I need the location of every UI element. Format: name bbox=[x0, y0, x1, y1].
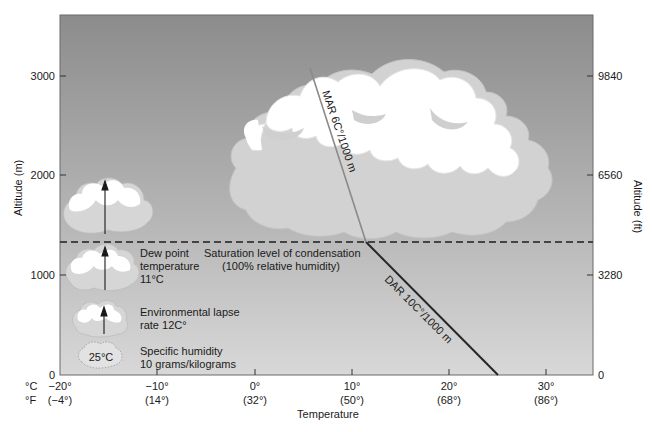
x-tick-f-3: (50°) bbox=[340, 394, 364, 406]
x-tick-f-0: (−4°) bbox=[48, 394, 72, 406]
x-tick-c-3: 10° bbox=[344, 380, 361, 392]
right-tick-3280: 3280 bbox=[598, 269, 622, 281]
right-tick-0: 0 bbox=[598, 369, 604, 381]
saturation-label-2: (100% relative humidity) bbox=[222, 260, 340, 272]
x-tick-c-1: −10° bbox=[145, 380, 168, 392]
adiabatic-diagram: 25°C MAR 6C°/1000 m DAR 10C°/1000 m Dew … bbox=[0, 0, 652, 432]
humidity-label-2: 10 grams/kilograms bbox=[140, 358, 236, 370]
right-axis-label: Altitude (ft) bbox=[632, 180, 644, 233]
humidity-label-1: Specific humidity bbox=[140, 345, 223, 357]
x-tick-f-2: (32°) bbox=[243, 394, 267, 406]
bottom-axis-label: Temperature bbox=[297, 408, 359, 420]
left-tick-2000: 2000 bbox=[31, 169, 55, 181]
left-tick-1000: 1000 bbox=[31, 269, 55, 281]
celsius-unit: °C bbox=[25, 380, 37, 392]
x-tick-c-5: 30° bbox=[538, 380, 555, 392]
x-tick-c-4: 20° bbox=[441, 380, 458, 392]
right-tick-9840: 9840 bbox=[598, 70, 622, 82]
fahrenheit-unit: °F bbox=[25, 394, 36, 406]
right-tick-6560: 6560 bbox=[598, 169, 622, 181]
lapse-rate-label-1: Environmental lapse bbox=[140, 306, 240, 318]
x-tick-f-1: (14°) bbox=[145, 394, 169, 406]
x-tick-c-2: 0° bbox=[250, 380, 261, 392]
dew-point-label-3: 11°C bbox=[140, 273, 164, 285]
x-tick-c-0: −20° bbox=[48, 380, 71, 392]
x-tick-f-5: (86°) bbox=[534, 394, 558, 406]
left-axis-label: Altitude (m) bbox=[12, 160, 24, 216]
saturation-label-1: Saturation level of condensation bbox=[204, 247, 361, 259]
x-tick-f-4: (68°) bbox=[437, 394, 461, 406]
surface-temp-label: 25°C bbox=[89, 351, 114, 363]
dew-point-label-1: Dew point bbox=[140, 247, 189, 259]
left-tick-3000: 3000 bbox=[31, 70, 55, 82]
dew-point-label-2: temperature bbox=[140, 260, 199, 272]
lapse-rate-label-2: rate 12C° bbox=[140, 319, 187, 331]
